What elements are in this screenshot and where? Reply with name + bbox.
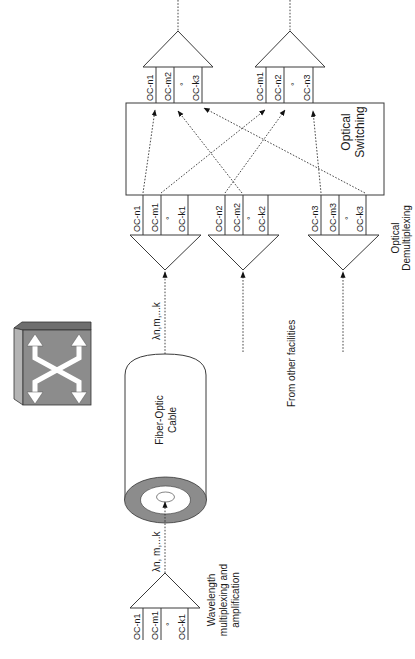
fiber-optic-cable: Fiber-Optic Cable [125,354,207,523]
cable-label-1: Fiber-Optic [154,395,165,444]
mux-ch2: OC-m1 [150,611,160,640]
in1-ellipsis: ° [165,216,175,220]
demux-1: OC-n1 OC-m1 ° OC-k1 [130,195,201,270]
in2-ch2: OC-m2 [232,203,242,232]
in1-ch1: OC-n1 [132,205,142,232]
in2-ch1: OC-n2 [214,205,224,232]
demux-3: OC-n3 OC-m3 ° OC-k3 [308,195,379,270]
out1-ellipsis: ° [179,82,189,86]
out1-ch2: OC-m2 [163,72,173,101]
in1-ch2: OC-m1 [150,203,160,232]
out1-ch3: OC-k3 [191,75,201,101]
output-mux-1: OC-n1 OC-m2 ° OC-k3 [143,31,213,103]
demux-caption-2: Demultiplexing [401,205,412,271]
in2-ch3: OC-k2 [257,206,267,232]
in3-ch1: OC-n3 [310,205,320,232]
optical-switching-box: Optical Switching [126,103,384,195]
in2-ellipsis: ° [246,216,256,220]
demux-2: OC-n2 OC-m2 ° OC-k2 [208,195,279,270]
in3-ch2: OC-m3 [328,203,338,232]
demux-caption-1: Optical [390,222,401,253]
mux-ellipsis: ° [165,622,175,626]
out2-ch3: OC-n3 [302,74,312,101]
mux-ch3: OC-k1 [177,614,187,640]
wavelength-mux: OC-n1 OC-m1 ° OC-k1 [130,573,200,640]
wavelength-label-bottom: λn, m,...k [151,530,162,572]
out2-ch1: OC-m1 [255,72,265,101]
cable-label-2: Cable [167,407,178,434]
in3-ch3: OC-k3 [355,206,365,232]
mux-caption-3: amplification [230,572,241,628]
switch-connections [143,108,365,193]
out2-ch2: OC-n2 [273,74,283,101]
in3-ellipsis: ° [344,216,354,220]
out2-ellipsis: ° [290,82,300,86]
switching-label-1: Optical [339,113,353,150]
optical-network-diagram: OC-n1 OC-m2 ° OC-k3 OC-m1 OC-n2 ° OC-n3 … [0,0,415,659]
other-facilities-label: From other facilities [286,320,297,407]
mux-ch1: OC-n1 [132,613,142,640]
switching-label-2: Switching [353,106,367,157]
optical-switch-icon [14,322,91,405]
in1-ch3: OC-k1 [177,206,187,232]
mux-caption-2: multiplexing and [218,564,229,636]
out1-ch1: OC-n1 [145,74,155,101]
mux-caption-1: Wavelength [206,574,217,626]
wavelength-label-top: λn,m,...k [151,301,162,340]
output-mux-2: OC-m1 OC-n2 ° OC-n3 [255,31,325,103]
